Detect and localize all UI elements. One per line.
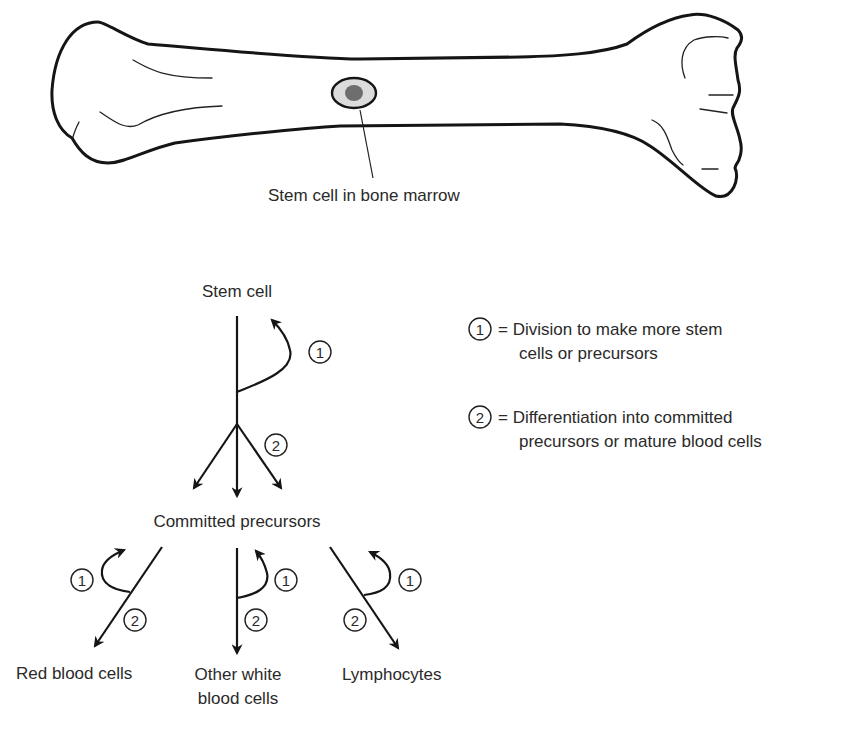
step-one-marker: 1 (469, 318, 491, 340)
legend-text: = Differentiation into committed (498, 408, 733, 427)
legend-item-division: 1 = Division to make more stem cells or … (469, 318, 722, 363)
stem-cell-leader-line (360, 110, 373, 178)
bone-illustration: Stem cell in bone marrow (52, 14, 742, 205)
outcome-label: Red blood cells (16, 664, 132, 683)
svg-text:1: 1 (282, 572, 290, 589)
lineage-branch-lymphocytes: 1 2 Lymphocytes (330, 547, 442, 684)
svg-text:2: 2 (252, 612, 260, 629)
legend-text: cells or precursors (519, 344, 658, 363)
differentiation-arrow-left (194, 424, 237, 488)
stem-cell-tree: Stem cell 1 2 Committed precursors (153, 282, 331, 531)
legend-text: = Division to make more stem (498, 320, 722, 339)
self-renewal-arrow (102, 550, 130, 592)
bone-detail-line (133, 60, 212, 78)
self-renewal-arrow (237, 320, 291, 392)
step-one-marker: 1 (399, 569, 421, 591)
lineage-branch-red-blood-cells: 1 2 Red blood cells (16, 547, 162, 683)
svg-text:1: 1 (406, 572, 414, 589)
step-one-marker: 1 (275, 569, 297, 591)
legend: 1 = Division to make more stem cells or … (469, 318, 762, 451)
bone-detail-line (100, 106, 222, 127)
lineage-arrow (330, 547, 398, 648)
svg-text:2: 2 (476, 409, 484, 426)
stem-cell-marrow-label: Stem cell in bone marrow (268, 186, 461, 205)
svg-text:1: 1 (78, 572, 86, 589)
self-renewal-arrow (237, 551, 267, 598)
outcome-label: Other white (195, 665, 282, 684)
step-two-marker: 2 (245, 609, 267, 631)
svg-text:2: 2 (272, 437, 280, 454)
svg-text:1: 1 (476, 321, 484, 338)
step-two-marker: 2 (265, 434, 287, 456)
svg-text:2: 2 (351, 612, 359, 629)
bone-detail-line (700, 109, 727, 113)
committed-precursors-label: Committed precursors (153, 512, 320, 531)
step-one-marker: 1 (309, 341, 331, 363)
self-renewal-arrow (364, 552, 390, 595)
outcome-label: blood cells (198, 689, 278, 708)
bone-detail-line (73, 122, 79, 137)
lineage-branch-other-white-blood-cells: 1 2 Other white blood cells (195, 548, 297, 708)
svg-text:2: 2 (131, 612, 139, 629)
stem-cell-label: Stem cell (202, 282, 272, 301)
step-two-marker: 2 (124, 609, 146, 631)
legend-item-differentiation: 2 = Differentiation into committed precu… (469, 406, 762, 451)
svg-text:1: 1 (316, 344, 324, 361)
stem-cell-nucleus (345, 85, 363, 101)
step-two-marker: 2 (344, 609, 366, 631)
legend-text: precursors or mature blood cells (519, 432, 762, 451)
step-one-marker: 1 (71, 569, 93, 591)
bone-outline (52, 14, 742, 196)
outcome-label: Lymphocytes (342, 665, 442, 684)
step-two-marker: 2 (469, 406, 491, 428)
bone-detail-line (682, 37, 728, 78)
hematopoiesis-diagram: Stem cell in bone marrow Stem cell 1 2 C… (0, 0, 841, 734)
